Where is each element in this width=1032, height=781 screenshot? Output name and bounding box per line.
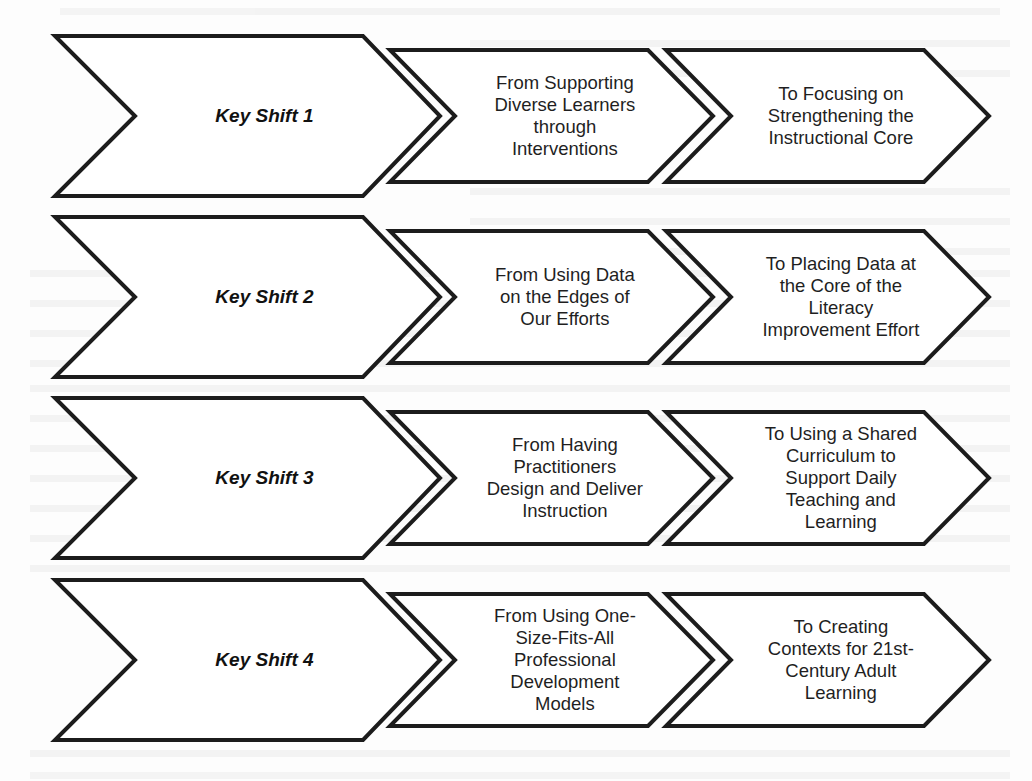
- key-shift-chevron: [55, 398, 440, 558]
- key-shift-row: [55, 580, 989, 740]
- key-shift-chevron: [55, 217, 440, 377]
- key-shifts-diagram: [0, 0, 1032, 781]
- key-shift-chevron: [55, 36, 440, 196]
- key-shift-chevron: [55, 580, 440, 740]
- key-shift-row: [55, 36, 989, 196]
- key-shift-row: [55, 217, 989, 377]
- key-shift-row: [55, 398, 989, 558]
